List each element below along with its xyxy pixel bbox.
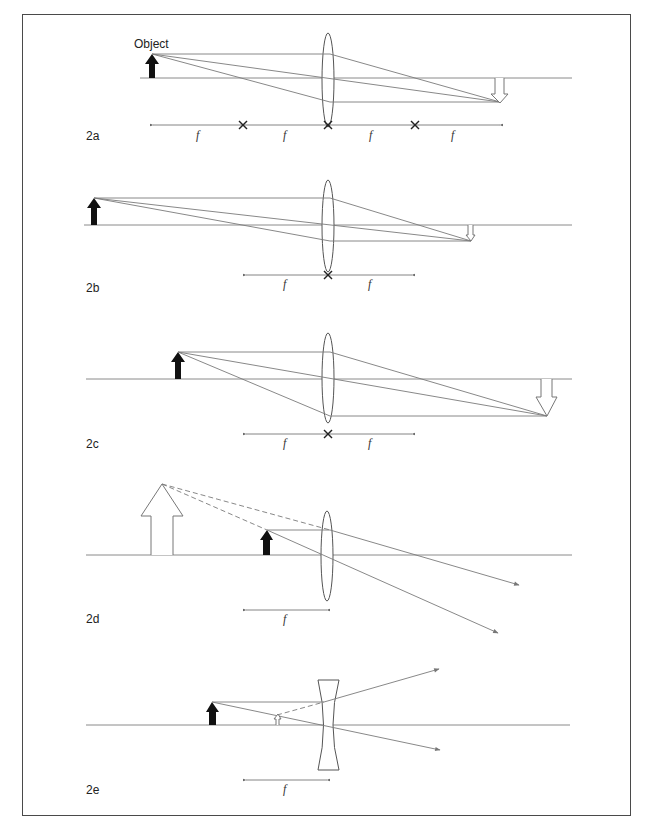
object-arrow-icon	[145, 54, 159, 78]
panel-2d: f 2d	[86, 484, 572, 633]
focal-length-label: f	[451, 128, 456, 142]
image-arrow-icon	[536, 379, 557, 416]
focal-length-label: f	[368, 277, 373, 291]
object-label: Object	[134, 37, 169, 51]
object-arrow-icon	[87, 198, 101, 225]
focal-length-label: f	[369, 128, 374, 142]
virtual-image-arrow-icon	[141, 484, 183, 555]
panel-label: 2b	[86, 281, 100, 295]
convex-lens	[322, 180, 334, 272]
focal-length-label: f	[283, 782, 288, 796]
panel-label: 2c	[86, 437, 99, 451]
focal-length-label: f	[196, 128, 201, 142]
object-arrow-icon	[206, 702, 219, 725]
object-arrow-icon	[260, 530, 273, 555]
image-arrow-icon	[466, 225, 475, 241]
focal-length-label: f	[368, 436, 373, 450]
optics-diagram: Object f f f f 2a f f 2b	[0, 0, 648, 835]
focal-length-label: f	[283, 436, 288, 450]
panel-label: 2e	[86, 783, 100, 797]
focal-length-label: f	[283, 277, 288, 291]
convex-lens	[322, 33, 334, 127]
panel-2e: f 2e	[86, 669, 570, 797]
panel-2c: f f 2c	[86, 333, 572, 451]
panel-label: 2a	[86, 129, 100, 143]
panel-label: 2d	[86, 612, 99, 626]
panel-2b: f f 2b	[84, 180, 572, 295]
object-arrow-icon	[171, 352, 185, 379]
panel-2a: Object f f f f 2a	[86, 33, 572, 143]
focal-length-label: f	[283, 612, 288, 626]
convex-lens	[321, 511, 333, 601]
image-arrow-icon	[491, 78, 508, 103]
focal-length-label: f	[283, 128, 288, 142]
